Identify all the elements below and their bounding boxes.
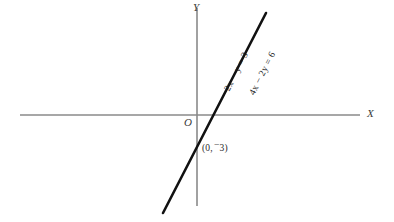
y-intercept-point-label: (0,−3) [202, 140, 228, 153]
plotted-line [163, 13, 266, 213]
graph-canvas [0, 0, 394, 222]
x-axis-label: X [367, 107, 374, 119]
coordinate-graph-figure: X Y O (0,−3) 2x − y = 3 4x − 2y = 6 [0, 0, 394, 222]
origin-label: O [184, 116, 192, 128]
y-axis-label: Y [193, 1, 199, 13]
point-label-prefix: (0, [202, 143, 213, 153]
point-label-suffix: 3) [219, 143, 227, 153]
